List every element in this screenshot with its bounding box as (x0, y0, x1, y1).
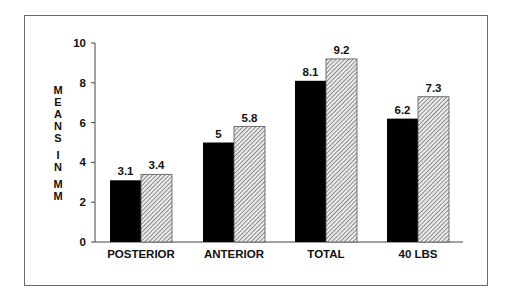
bar-total-series-2 (326, 59, 357, 242)
y-tick-label: 10 (73, 37, 86, 49)
x-tick-label: TOTAL (276, 248, 376, 260)
y-tick-label: 4 (80, 156, 87, 168)
x-tick-label: ANTERIOR (184, 248, 284, 260)
y-axis-label-word: IN (52, 149, 64, 173)
x-tick-label: POSTERIOR (91, 248, 191, 260)
bar-posterior-series-1 (110, 180, 141, 242)
bars (110, 59, 449, 242)
value-label: 5 (215, 128, 222, 140)
y-axis-label-word: MM (52, 178, 64, 202)
y-tick-label: 0 (80, 236, 86, 248)
y-tick-label: 6 (80, 117, 86, 129)
value-label: 7.3 (426, 82, 442, 94)
value-label: 3.4 (149, 159, 166, 171)
y-axis-label-word: MEANS (52, 84, 64, 144)
value-label: 6.2 (395, 104, 411, 116)
bar-anterior-series-2 (234, 127, 265, 242)
bar-posterior-series-2 (141, 174, 172, 242)
x-tick-label: 40 LBS (368, 248, 468, 260)
value-label: 9.2 (334, 44, 350, 56)
y-tick-label: 2 (80, 196, 86, 208)
value-label: 5.8 (242, 112, 259, 124)
value-label: 8.1 (303, 66, 320, 78)
y-tick-label: 8 (80, 77, 87, 89)
bar-total-series-1 (295, 81, 326, 242)
value-label: 3.1 (118, 165, 135, 177)
bar-40-lbs-series-1 (387, 119, 418, 242)
bar-40-lbs-series-2 (418, 97, 449, 242)
bar-anterior-series-1 (203, 143, 234, 243)
